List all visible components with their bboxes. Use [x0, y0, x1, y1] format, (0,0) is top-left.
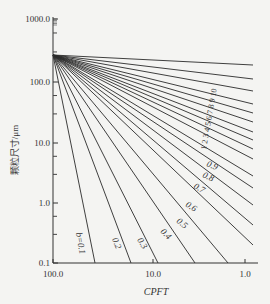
distribution-line	[53, 55, 253, 140]
y-tick-label: 1.0	[39, 198, 51, 208]
y-axis-title: 颗粒尺寸/μm	[9, 125, 20, 175]
distribution-line	[53, 55, 253, 205]
x-axis-title: CPFT	[144, 286, 170, 297]
label-b06: 0.6	[184, 199, 199, 214]
x-tick-label: 1.0	[239, 269, 251, 279]
distribution-line	[53, 55, 253, 159]
distribution-line	[53, 55, 253, 245]
label-b05: 0.5	[175, 216, 190, 231]
distribution-line	[53, 55, 253, 122]
y-tick-label: 0.1	[39, 258, 50, 268]
distribution-line	[53, 55, 253, 225]
y-tick-label: 100.0	[30, 77, 51, 87]
x-tick-label: 100.0	[43, 269, 64, 279]
label-b01: b=0.1	[74, 232, 88, 255]
label-b08: 0.8	[201, 170, 216, 184]
x-tick-label: 10.0	[145, 269, 161, 279]
label-top-sequence: 1 2 3 4 5 6 7 8 9 10	[199, 88, 219, 151]
label-b03: 0.3	[135, 236, 150, 251]
x-ticks: 100.010.01.0	[43, 259, 251, 279]
chart: 1000.0100.010.01.00.1 100.010.01.0 CPFT …	[0, 0, 270, 304]
distribution-line	[53, 55, 253, 104]
y-tick-label: 1000.0	[25, 14, 50, 24]
y-tick-label: 10.0	[34, 138, 50, 148]
label-b07: 0.7	[192, 181, 207, 195]
distribution-line	[53, 55, 158, 263]
